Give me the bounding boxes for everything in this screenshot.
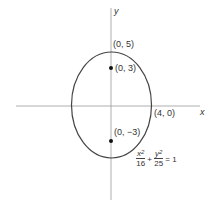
label-focus-lower: (0, −3) bbox=[114, 128, 140, 137]
equals-one: = 1 bbox=[165, 155, 176, 164]
fraction-x-term: x2 16 bbox=[136, 150, 145, 168]
ellipse-equation: x2 16 + y2 25 = 1 bbox=[136, 150, 177, 168]
focus-lower-dot bbox=[109, 139, 113, 143]
y-axis-label: y bbox=[114, 7, 119, 16]
label-co-vertex-right: (4, 0) bbox=[154, 109, 175, 118]
label-vertex-top: (0, 5) bbox=[113, 40, 134, 49]
ellipse-diagram bbox=[0, 0, 213, 209]
fraction-y-term: y2 25 bbox=[154, 150, 163, 168]
x-axis-label: x bbox=[200, 108, 205, 117]
label-focus-upper: (0, 3) bbox=[115, 64, 136, 73]
plus-sign: + bbox=[147, 155, 152, 164]
focus-upper-dot bbox=[109, 66, 113, 70]
